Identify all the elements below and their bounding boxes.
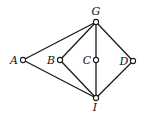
node-label-b: B xyxy=(46,54,55,67)
node-g xyxy=(93,19,98,24)
edges xyxy=(23,22,133,98)
labels: GABCDI xyxy=(9,5,129,114)
node-c xyxy=(93,57,98,62)
node-label-c: C xyxy=(83,54,92,67)
node-label-a: A xyxy=(9,54,18,67)
node-b xyxy=(57,57,62,62)
node-a xyxy=(20,57,25,62)
node-label-d: D xyxy=(119,55,129,68)
node-label-g: G xyxy=(92,5,101,18)
graph-diagram: GABCDI xyxy=(0,0,146,114)
node-label-i: I xyxy=(92,101,98,114)
node-i xyxy=(93,95,98,100)
node-d xyxy=(130,58,135,63)
